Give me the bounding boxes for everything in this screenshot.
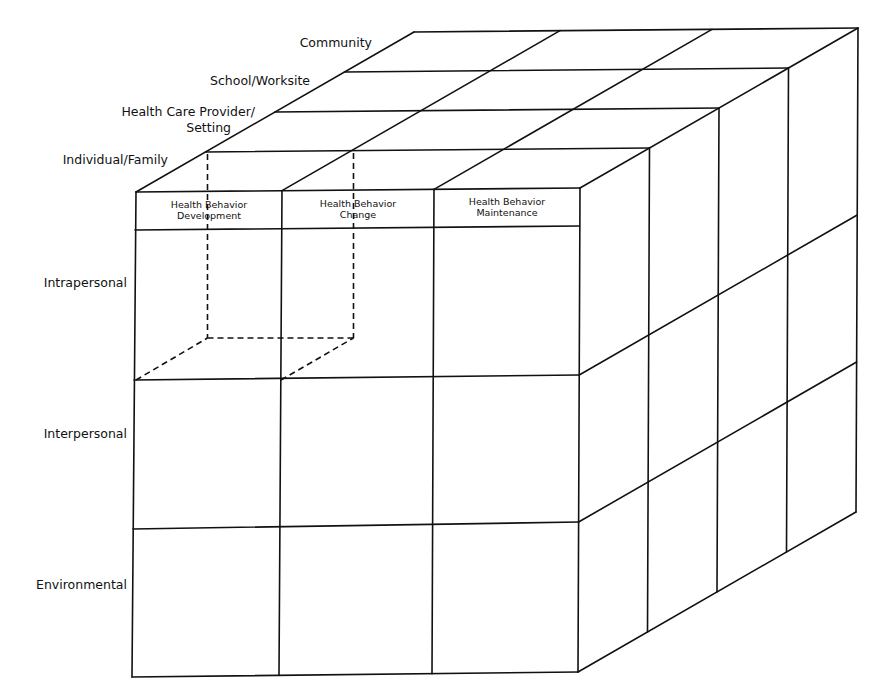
cube-diagram: Health BehaviorDevelopmentHealth Behavio… [0, 0, 882, 700]
front-horizontal-line [132, 672, 578, 677]
front-horizontal-line [135, 226, 580, 230]
highlighted-subcube [136, 153, 354, 380]
side-vertical-line [787, 68, 789, 552]
depth-label-community: Community [300, 35, 373, 50]
column-header-development: Development [177, 210, 241, 221]
subcube-left-floor-edge [136, 338, 208, 380]
depth-label-provider: Health Care Provider/ [121, 104, 255, 119]
front-vertical-line [432, 189, 434, 673]
depth-label-provider: Setting [186, 120, 231, 135]
top-depth-line [345, 68, 789, 72]
cube-labels: Health BehaviorDevelopmentHealth Behavio… [36, 35, 545, 592]
front-horizontal-line [136, 188, 580, 192]
depth-label-school: School/Worksite [210, 73, 310, 88]
column-header-development: Health Behavior [171, 199, 247, 210]
front-horizontal-line [134, 375, 579, 380]
front-vertical-line [578, 188, 580, 672]
column-header-change: Change [340, 209, 377, 220]
front-vertical-line [279, 191, 282, 676]
column-header-maintenance: Maintenance [476, 207, 537, 218]
side-vertical-line [648, 148, 650, 632]
top-depth-line [275, 108, 719, 112]
front-horizontal-line [133, 522, 579, 529]
top-depth-line [414, 28, 858, 32]
depth-label-individual: Individual/Family [63, 152, 169, 167]
front-vertical-line [132, 192, 136, 677]
row-label-environmental: Environmental [36, 577, 127, 592]
subcube-right-floor-edge [281, 338, 354, 380]
column-header-change: Health Behavior [320, 198, 396, 209]
top-depth-line [206, 148, 650, 152]
cube-edges [132, 28, 858, 677]
side-vertical-line [856, 28, 858, 512]
column-header-maintenance: Health Behavior [469, 196, 545, 207]
row-label-interpersonal: Interpersonal [44, 426, 127, 441]
row-label-intrapersonal: Intrapersonal [44, 275, 127, 290]
side-vertical-line [717, 108, 719, 592]
